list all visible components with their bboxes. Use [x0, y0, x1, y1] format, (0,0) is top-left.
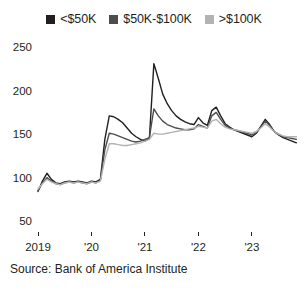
x-tick-mark-2023: [251, 232, 252, 236]
x-tick-2019: 2019: [25, 242, 51, 254]
legend-label-under-50k: <$50K: [60, 13, 96, 26]
series-lines: [0, 34, 308, 244]
legend-item-over-100k: >$100K: [205, 13, 262, 26]
legend-swatch-50k-100k: [109, 15, 118, 24]
chart-legend: <$50K $50K-$100K >$100K: [0, 8, 308, 30]
source-note: Source: Bank of America Institute: [10, 262, 187, 276]
legend-label-over-100k: >$100K: [219, 13, 262, 26]
x-tick-mark-2022: [198, 232, 199, 236]
legend-item-50k-100k: $50K-$100K: [109, 13, 192, 26]
x-tick-2022: '22: [191, 242, 206, 254]
plot-area: [0, 34, 308, 244]
legend-item-under-50k: <$50K: [46, 13, 96, 26]
x-axis-tick-labels: 2019'20'21'22'23: [0, 236, 308, 254]
x-tick-mark-2021: [144, 232, 145, 236]
series-line--100k: [38, 119, 296, 189]
legend-swatch-under-50k: [46, 15, 55, 24]
x-tick-2021: '21: [137, 242, 152, 254]
legend-swatch-over-100k: [205, 15, 214, 24]
x-tick-2020: '20: [84, 242, 99, 254]
x-tick-mark-2019: [38, 232, 39, 236]
legend-label-50k-100k: $50K-$100K: [123, 13, 192, 26]
series-line--50k: [38, 64, 296, 192]
x-tick-mark-2020: [91, 232, 92, 236]
chart-figure: <$50K $50K-$100K >$100K 50100150200250 2…: [0, 0, 308, 297]
series-line--50k-100k: [38, 109, 296, 191]
x-tick-2023: '23: [244, 242, 259, 254]
